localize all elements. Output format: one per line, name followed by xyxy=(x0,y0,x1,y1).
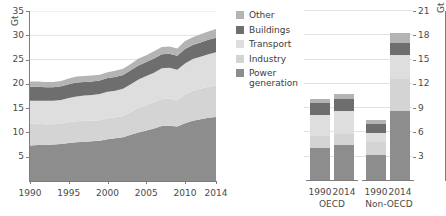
bar-gridline xyxy=(304,10,412,11)
bar-group-label: OECD xyxy=(308,199,356,209)
bar-segment-buildings xyxy=(366,124,386,133)
right-y-tick: 6 xyxy=(418,128,434,137)
left-x-tick: 2000 xyxy=(95,189,121,198)
bar-segment-transport xyxy=(390,55,410,79)
left-axis-unit: Gt xyxy=(10,15,20,26)
area-series-svg xyxy=(30,11,216,181)
left-x-tick: 2014 xyxy=(203,189,229,198)
bar-column[interactable] xyxy=(390,33,410,181)
left-y-tick: 10 xyxy=(2,128,24,137)
left-x-tick: 2005 xyxy=(133,189,159,198)
bar-segment-buildings xyxy=(310,103,330,115)
legend-item-label: Industry xyxy=(249,54,286,64)
legend-swatch-icon xyxy=(236,69,244,77)
right-y-tick: 18 xyxy=(418,31,434,40)
bar-segment-industry xyxy=(390,79,410,111)
right-y-tick-mark xyxy=(413,11,416,12)
left-y-tick: 25 xyxy=(2,55,24,64)
right-y-tick-mark xyxy=(413,108,416,109)
bar-column[interactable] xyxy=(334,94,354,181)
bar-segment-buildings xyxy=(334,99,354,111)
bar-segment-transport xyxy=(310,115,330,135)
right-y-tick-mark xyxy=(413,157,416,158)
chart-figure: Gt 5101520253035 19901995200020052010201… xyxy=(0,0,446,216)
left-y-tick-mark xyxy=(26,108,29,109)
right-y-tick-mark xyxy=(413,132,416,133)
left-y-tick: 35 xyxy=(2,7,24,16)
left-y-tick-mark xyxy=(26,11,29,12)
legend-item-label: Transport xyxy=(249,39,291,49)
bar-chart-panel: Gt 36912151821 1990201419902014 OECDNon-… xyxy=(300,0,446,216)
left-y-tick-mark xyxy=(26,60,29,61)
bar-segment-transport xyxy=(366,133,386,142)
left-y-axis-line xyxy=(29,11,30,181)
legend-swatch-icon xyxy=(236,11,244,19)
bar-segment-power-generation xyxy=(390,111,410,181)
left-x-tick-mark xyxy=(185,181,186,184)
bar-segment-power-generation xyxy=(310,148,330,181)
right-y-tick-mark xyxy=(413,84,416,85)
left-y-tick: 5 xyxy=(2,152,24,161)
left-y-tick-mark xyxy=(26,157,29,158)
bar-segment-buildings xyxy=(390,43,410,55)
bar-segment-industry xyxy=(366,142,386,155)
left-x-tick-mark xyxy=(146,181,147,184)
left-x-tick: 1995 xyxy=(56,189,82,198)
left-y-tick-mark xyxy=(26,35,29,36)
legend-item-label: Buildings xyxy=(249,25,290,35)
left-y-tick-mark xyxy=(26,132,29,133)
bar-x-tick: 2014 xyxy=(327,187,361,197)
left-x-tick-mark xyxy=(30,181,31,184)
legend-swatch-icon xyxy=(236,55,244,63)
bar-baseline xyxy=(306,180,358,181)
bar-plot-region xyxy=(304,11,412,181)
bar-baseline xyxy=(362,180,414,181)
left-x-tick-mark xyxy=(108,181,109,184)
bar-segment-industry xyxy=(334,134,354,145)
right-y-tick-mark xyxy=(413,35,416,36)
legend-swatch-icon xyxy=(236,40,244,48)
left-y-tick-mark xyxy=(26,84,29,85)
right-y-tick-mark xyxy=(413,60,416,61)
left-x-tick-mark xyxy=(69,181,70,184)
left-x-axis-line xyxy=(29,181,216,182)
right-y-tick: 15 xyxy=(418,55,434,64)
right-y-tick: 9 xyxy=(418,104,434,113)
left-x-tick-mark xyxy=(216,181,217,184)
bar-segment-power-generation xyxy=(366,155,386,181)
bar-segment-industry xyxy=(310,136,330,148)
right-y-tick: 21 xyxy=(418,7,434,16)
left-x-tick: 2010 xyxy=(172,189,198,198)
bar-column[interactable] xyxy=(366,120,386,181)
bar-x-tick: 2014 xyxy=(383,187,417,197)
area-chart-panel: Gt 5101520253035 19901995200020052010201… xyxy=(0,0,232,216)
area-plot-region xyxy=(30,11,216,181)
right-y-tick: 3 xyxy=(418,152,434,161)
left-y-tick: 20 xyxy=(2,79,24,88)
left-y-tick: 15 xyxy=(2,104,24,113)
left-y-tick: 30 xyxy=(2,31,24,40)
bar-segment-other xyxy=(390,33,410,43)
legend-item-label: Other xyxy=(249,10,275,20)
bar-segment-power-generation xyxy=(334,145,354,181)
right-y-tick: 12 xyxy=(418,79,434,88)
bar-segment-transport xyxy=(334,111,354,134)
bar-column[interactable] xyxy=(310,99,330,181)
left-x-tick: 1990 xyxy=(17,189,43,198)
bar-group-label: Non-OECD xyxy=(362,199,416,209)
legend-swatch-icon xyxy=(236,26,244,34)
